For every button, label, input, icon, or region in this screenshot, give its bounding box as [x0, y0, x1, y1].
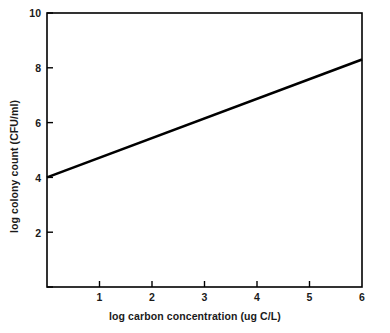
plot-canvas: [0, 0, 390, 333]
y-tick-label-10: 10: [19, 7, 41, 19]
x-tick-label-2: 2: [141, 291, 163, 303]
x-tick-label-6: 6: [351, 291, 373, 303]
plot-frame: [47, 13, 362, 287]
x-tick-label-4: 4: [246, 291, 268, 303]
y-tick-label-4: 4: [19, 172, 41, 184]
x-tick-label-3: 3: [194, 291, 216, 303]
x-tick-label-1: 1: [89, 291, 111, 303]
chart-figure: 2 4 6 8 10 1 2 3 4 5 6 log carbon concen…: [0, 0, 390, 333]
x-axis-title: log carbon concentration (ug C/L): [0, 310, 390, 322]
y-tick-label-8: 8: [19, 62, 41, 74]
y-tick-label-6: 6: [19, 117, 41, 129]
x-tick-label-5: 5: [299, 291, 321, 303]
y-tick-label-2: 2: [19, 227, 41, 239]
y-axis-title: log colony count (CFU/ml): [6, 0, 22, 333]
